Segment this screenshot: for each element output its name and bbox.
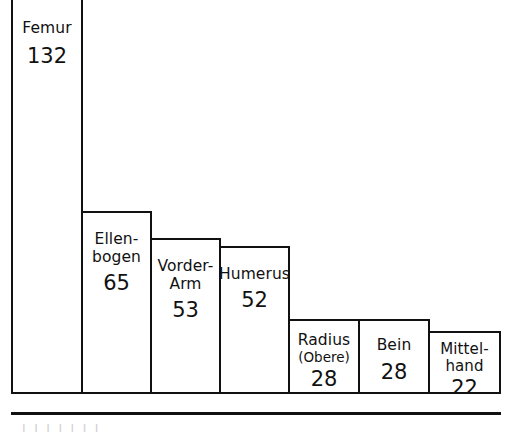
bar-vorder-arm: Vorder- Arm 53 [150, 238, 221, 394]
bar-label-bein: Bein [377, 337, 412, 355]
caption-strip: l l l l l l l [0, 424, 509, 434]
bar-value-femur: 132 [27, 45, 67, 67]
bar-mittelhand: Mittel- hand 22 [428, 331, 501, 394]
bar-value-humerus: 52 [241, 289, 268, 311]
bar-sublabel-radius-obere: (Obere) [298, 350, 350, 366]
bar-value-radius: 28 [311, 368, 338, 390]
bar-value-bein: 28 [381, 361, 408, 383]
bar-radius-obere: Radius (Obere) 28 [288, 319, 360, 394]
bar-value-ellenbogen: 65 [103, 272, 130, 294]
bar-label-radius: Radius [298, 332, 351, 350]
axis-baseline [11, 412, 501, 415]
bar-label-humerus: Humerus [219, 266, 290, 284]
bar-group: Femur 132 Ellen- bogen 65 Vorder- Arm 53… [0, 0, 509, 414]
caption-text: l l l l l l l [22, 424, 509, 434]
bar-humerus: Humerus 52 [219, 246, 290, 394]
bar-label-vorder-arm: Vorder- Arm [157, 258, 213, 294]
bar-label-ellenbogen: Ellen- bogen [92, 231, 141, 267]
bar-ellenbogen: Ellen- bogen 65 [81, 211, 152, 394]
bar-chart-figure: Femur 132 Ellen- bogen 65 Vorder- Arm 53… [0, 0, 509, 434]
bar-value-vorder-arm: 53 [172, 299, 199, 321]
bar-bein: Bein 28 [358, 319, 430, 394]
bar-femur: Femur 132 [11, 0, 83, 394]
bar-label-femur: Femur [22, 20, 71, 38]
bar-label-mittelhand: Mittel- hand [440, 341, 488, 376]
bar-value-mittelhand: 22 [451, 377, 478, 394]
